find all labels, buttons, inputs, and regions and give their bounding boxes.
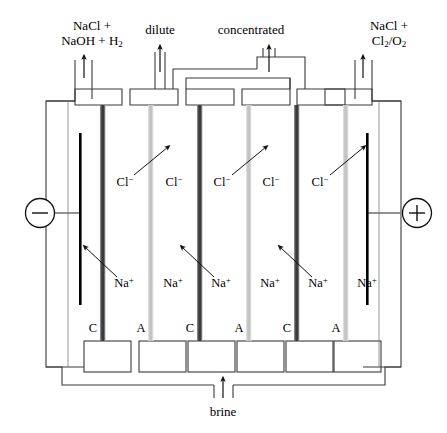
label-concentrated: concentrated	[218, 22, 284, 37]
cathode-plate	[79, 133, 82, 305]
diagram-canvas: NaCl + NaOH + H2 dilute concentrated NaC…	[0, 0, 447, 433]
membrane-cation-2	[197, 105, 202, 341]
membrane-stack	[100, 105, 348, 341]
label-sodium-2: Na+	[163, 273, 183, 291]
label-sodium-5: Na+	[308, 273, 328, 291]
flow-arrows	[84, 47, 363, 398]
feed-manifold-left	[46, 367, 214, 385]
ion-arrows	[85, 147, 364, 277]
manifold-concentrate-outer-mid	[257, 57, 290, 69]
label-chloride-2: Cl−	[166, 172, 183, 190]
feed-manifold-right	[233, 367, 401, 385]
label-outlet-right: NaCl + Cl2/O2	[370, 18, 408, 52]
label-dilute: dilute	[145, 22, 175, 37]
label-sodium-6: Na+	[357, 273, 377, 291]
label-sodium-4: Na+	[260, 273, 280, 291]
vessel-right-wall	[363, 96, 401, 367]
chamber-bottom-5	[286, 341, 333, 372]
membrane-anion-1	[148, 105, 153, 341]
membrane-letter-2: A	[136, 321, 145, 336]
chamber-top-2	[186, 89, 234, 105]
chamber-top-4	[297, 89, 345, 105]
label-outlet-left-line2: NaOH + H2	[61, 33, 123, 52]
membrane-letter-5: C	[283, 321, 291, 336]
membrane-letter-3: C	[186, 321, 194, 336]
label-chloride-4: Cl−	[263, 172, 280, 190]
membrane-letter-1: C	[89, 321, 97, 336]
chamber-bottom-2	[139, 341, 186, 372]
membrane-letter-6: A	[331, 321, 340, 336]
membrane-letter-4: A	[234, 321, 243, 336]
label-sodium-3: Na+	[211, 273, 231, 291]
chamber-top-left	[75, 89, 122, 105]
label-outlet-left-line1: NaCl +	[61, 18, 123, 33]
label-outlet-right-line2: Cl2/O2	[370, 33, 408, 52]
manifold-concentrate-outer-right	[290, 57, 305, 89]
chamber-bottom-1	[84, 341, 131, 372]
label-outlet-left: NaCl + NaOH + H2	[61, 18, 123, 52]
chamber-bottom-3	[188, 341, 235, 372]
label-chloride-5: Cl−	[312, 172, 329, 190]
label-outlet-right-line1: NaCl +	[370, 18, 408, 33]
manifold-inner-box	[186, 78, 290, 89]
vessel-left-wall	[46, 96, 84, 367]
membrane-cation-1	[100, 105, 105, 341]
label-chloride-1: Cl−	[117, 172, 134, 190]
chamber-top-1	[130, 89, 178, 105]
membrane-anion-3	[343, 105, 348, 341]
chamber-top-3	[242, 89, 290, 105]
chamber-top-right	[325, 89, 372, 105]
membrane-cation-3	[294, 105, 299, 341]
label-brine: brine	[210, 404, 237, 419]
label-sodium-1: Na+	[114, 273, 134, 291]
electrodialysis-schematic	[0, 0, 447, 433]
chamber-bottom-4	[237, 341, 284, 372]
membrane-anion-2	[246, 105, 251, 341]
label-chloride-3: Cl−	[214, 172, 231, 190]
